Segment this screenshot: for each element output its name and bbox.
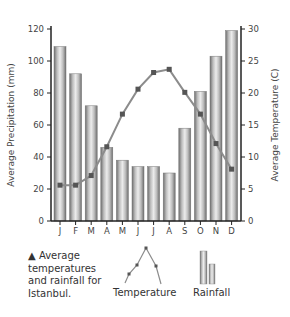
- rainfall-bar: [116, 160, 128, 221]
- temperature-marker: [151, 70, 156, 75]
- temperature-marker: [167, 67, 172, 72]
- rainfall-bar: [85, 106, 97, 221]
- rainfall-bar: [148, 167, 160, 221]
- temperature-line: [58, 67, 235, 188]
- legend-temperature-label: Temperature: [113, 287, 176, 298]
- svg-text:D: D: [228, 226, 235, 236]
- rainfall-bar: [210, 56, 222, 221]
- svg-text:120: 120: [28, 24, 44, 34]
- legend-rainfall-label: Rainfall: [193, 287, 230, 298]
- svg-text:M: M: [88, 226, 95, 236]
- temperature-marker: [182, 90, 187, 95]
- rainfall-bar: [194, 91, 206, 221]
- svg-text:M: M: [119, 226, 126, 236]
- rainfall-bar: [179, 128, 191, 221]
- temperature-marker: [229, 167, 234, 172]
- rainfall-legend-icon: [200, 251, 215, 284]
- temperature-marker: [89, 173, 94, 178]
- svg-text:40: 40: [33, 152, 44, 162]
- svg-text:25: 25: [248, 56, 259, 66]
- svg-text:J: J: [136, 226, 140, 236]
- temperature-marker: [104, 144, 109, 149]
- legend-icons: [125, 247, 215, 285]
- temperature-legend-icon: [125, 247, 161, 285]
- svg-text:20: 20: [33, 184, 44, 194]
- svg-text:0: 0: [39, 216, 44, 226]
- temperature-marker: [120, 112, 125, 117]
- svg-text:30: 30: [248, 24, 259, 34]
- triangle-icon: ▲: [28, 250, 36, 261]
- svg-text:J: J: [151, 226, 155, 236]
- svg-text:80: 80: [33, 88, 44, 98]
- rainfall-bar: [54, 47, 66, 221]
- svg-text:5: 5: [248, 184, 253, 194]
- svg-text:N: N: [213, 226, 219, 236]
- svg-text:Average Temperature (C): Average Temperature (C): [270, 69, 280, 182]
- temperature-marker: [214, 141, 219, 146]
- svg-text:Average Precipitation (mm): Average Precipitation (mm): [6, 63, 16, 187]
- temperature-marker: [198, 112, 203, 117]
- rainfall-bar: [163, 173, 175, 221]
- temperature-marker: [58, 183, 63, 188]
- svg-text:J: J: [58, 226, 62, 236]
- rainfall-bar: [226, 31, 238, 221]
- svg-text:S: S: [182, 226, 187, 236]
- rainfall-bar: [132, 167, 144, 221]
- rainfall-bar: [101, 147, 113, 221]
- svg-text:0: 0: [248, 216, 253, 226]
- temperature-marker: [73, 183, 78, 188]
- svg-text:A: A: [166, 226, 172, 236]
- rainfall-bars: [54, 31, 238, 221]
- svg-text:F: F: [73, 226, 78, 236]
- rainfall-bar: [70, 74, 82, 221]
- svg-text:A: A: [104, 226, 110, 236]
- svg-text:20: 20: [248, 88, 259, 98]
- svg-text:60: 60: [33, 120, 44, 130]
- svg-text:15: 15: [248, 120, 259, 130]
- figure-caption: ▲ Average temperatures and rainfall for …: [28, 250, 118, 300]
- svg-text:10: 10: [248, 152, 259, 162]
- temperature-marker: [136, 87, 141, 92]
- svg-text:100: 100: [28, 56, 44, 66]
- svg-text:O: O: [197, 226, 204, 236]
